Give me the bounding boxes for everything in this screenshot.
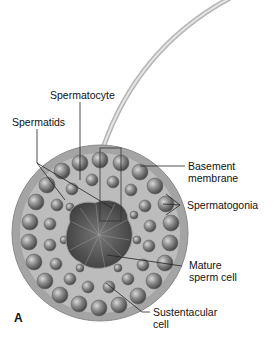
label-sustentacular-2: cell <box>153 318 169 330</box>
label-basement-membrane-1: Basement <box>188 160 235 172</box>
label-spermatocyte: Spermatocyte <box>50 89 115 101</box>
label-mature-sperm-2: sperm cell <box>189 271 237 283</box>
label-spermatids: Spermatids <box>12 116 65 128</box>
label-mature-sperm-1: Mature <box>189 259 222 271</box>
label-sustentacular-1: Sustentacular <box>153 306 217 318</box>
panel-label: A <box>14 311 23 325</box>
label-spermatogonia: Spermatogonia <box>187 199 258 211</box>
tubule-strand <box>103 0 230 148</box>
label-basement-membrane-2: membrane <box>188 172 238 184</box>
